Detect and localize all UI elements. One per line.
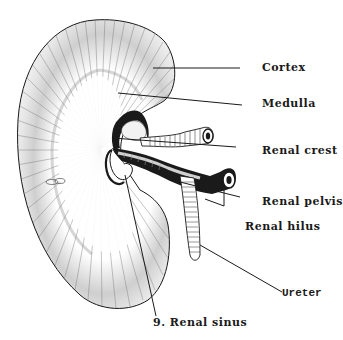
label-renal-crest: Renal crest	[262, 145, 338, 157]
label-renal-pelvis: Renal pelvis	[262, 196, 343, 208]
renal-artery	[140, 127, 213, 147]
label-renal-sinus: 9. Renal sinus	[153, 317, 247, 329]
label-medulla: Medulla	[262, 98, 316, 110]
label-cortex: Cortex	[262, 62, 306, 74]
leader-ureter	[200, 245, 282, 292]
label-renal-hilus: Renal hilus	[245, 221, 320, 233]
label-ureter: Ureter	[282, 287, 322, 299]
